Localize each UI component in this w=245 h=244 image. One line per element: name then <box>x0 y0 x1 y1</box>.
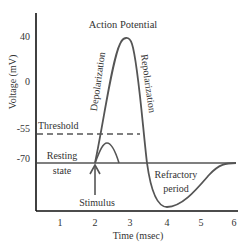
threshold-label: Threshold <box>38 120 79 131</box>
action-potential-diagram: Action Potential Voltage (mV) 40 0 -55 -… <box>0 0 245 244</box>
x-tick-5: 5 <box>199 217 204 228</box>
depolarization-label: Depolarization <box>88 51 107 111</box>
x-tick-4: 4 <box>165 217 170 228</box>
chart-title: Action Potential <box>89 19 158 30</box>
x-tick-6: 6 <box>232 217 237 228</box>
resting-label-line2: state <box>53 165 72 176</box>
x-tick-3: 3 <box>128 217 133 228</box>
stimulus-arrow-icon <box>90 165 100 195</box>
y-axis-label: Voltage (mV) <box>7 55 19 110</box>
y-tick-0: 0 <box>25 76 30 87</box>
refractory-label-line2: period <box>163 183 189 194</box>
refractory-label-line1: Refractory <box>155 169 198 180</box>
resting-label-line1: Resting <box>47 150 78 161</box>
y-tick-minus70: -70 <box>17 153 30 164</box>
x-tick-2: 2 <box>93 217 98 228</box>
x-tick-1: 1 <box>58 217 63 228</box>
stimulus-label: Stimulus <box>79 197 115 208</box>
y-tick-40: 40 <box>20 31 30 42</box>
action-potential-curve <box>95 38 236 207</box>
x-axis-label: Time (msec) <box>113 230 163 242</box>
y-tick-minus55: -55 <box>17 123 30 134</box>
